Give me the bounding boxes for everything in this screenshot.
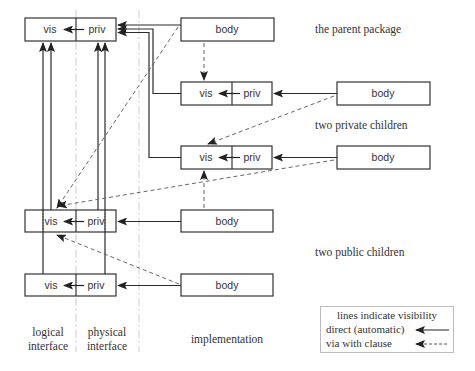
column-label-physical-1: physical [88,326,126,339]
legend: lines indicate visibility direct (automa… [321,307,454,353]
parent-body-box: body [181,18,274,41]
legend-direct-label: direct (automatic) [326,323,405,336]
legend-title: lines indicate visibility [337,309,438,321]
row-label-parent: the parent package [315,23,401,36]
public-child-1-priv-label: priv [88,215,106,227]
private-child-1-body-label: body [372,87,396,99]
column-label-logical-2: interface [28,340,68,352]
row-label-private: two private children [315,119,408,132]
private-child-2-vis-label: vis [200,151,213,163]
public-child-1-vis-label: vis [45,215,58,227]
public-child-2-spec-box: vis priv [25,274,116,296]
column-label-implementation: implementation [191,333,263,346]
row-label-public: two public children [315,246,405,259]
parent-priv-label: priv [89,23,107,35]
column-label-physical-2: interface [87,340,127,352]
private-child-1-body-box: body [337,82,430,105]
private-child-2-priv-label: priv [244,151,262,163]
public-child-2-vis-label: vis [45,279,58,291]
public-child-1-body-box: body [181,210,273,232]
public-child-1-body-label: body [216,215,240,227]
private-child-1-vis-label: vis [200,87,213,99]
private-child-2-body-box: body [337,146,430,169]
column-label-logical-1: logical [32,326,63,339]
parent-spec-box: vis priv [25,18,116,41]
private-child-2-body-label: body [372,151,396,163]
legend-with-clause-label: via with clause [326,337,392,349]
public-child-1-spec-box: vis priv [25,210,116,232]
public-child-2-priv-label: priv [88,279,106,291]
parent-vis-label: vis [44,23,57,35]
public-child-2-body-label: body [216,279,240,291]
public-child-2-body-box: body [181,274,273,296]
visibility-diagram: vis priv body the parent package vis pri… [0,0,475,371]
parent-body-label: body [216,23,240,35]
private-child-2-spec-box: vis priv [181,146,272,169]
private-child-1-spec-box: vis priv [181,82,272,105]
private-child-1-priv-label: priv [244,87,262,99]
